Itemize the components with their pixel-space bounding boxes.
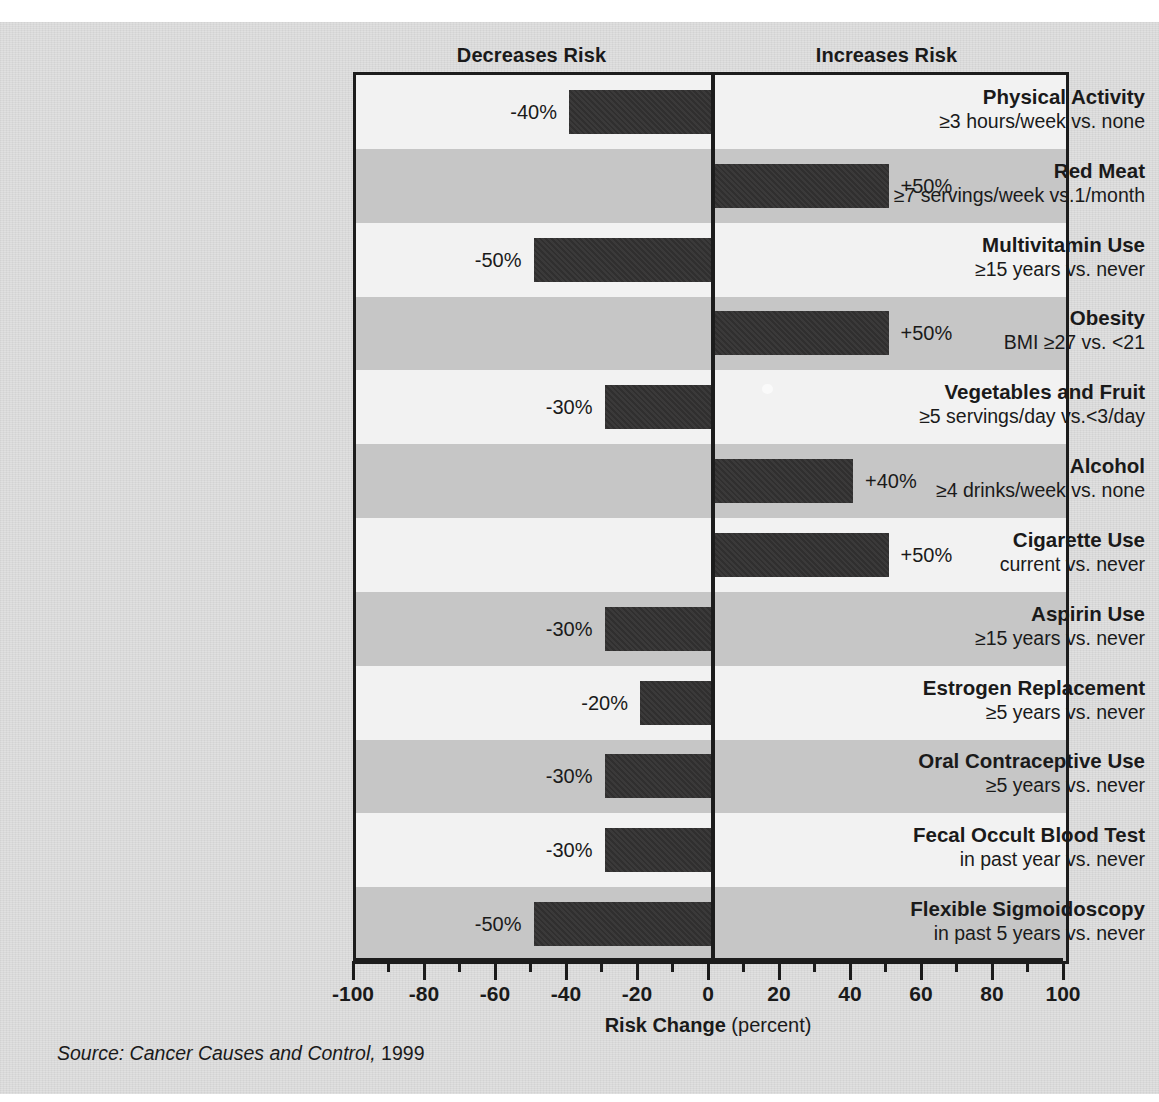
chart-bar xyxy=(534,238,712,282)
x-axis-minor-tick xyxy=(387,961,390,972)
x-axis-major-tick xyxy=(423,961,426,980)
chart-bar xyxy=(605,828,712,872)
category-label-group: Oral Contraceptive Use≥5 years vs. never xyxy=(829,748,1159,798)
chart-bar-value-label: -50% xyxy=(356,248,522,272)
chart-bar xyxy=(711,533,889,577)
x-axis-tick-label: 100 xyxy=(1028,982,1098,1006)
x-axis-minor-tick xyxy=(529,961,532,972)
category-label-group: Flexible Sigmoidoscopyin past 5 years vs… xyxy=(829,896,1159,946)
x-axis-title-main: Risk Change xyxy=(605,1014,726,1036)
category-label-title: Aspirin Use xyxy=(829,601,1145,626)
category-label-subtitle: ≥15 years vs. never xyxy=(829,257,1145,282)
chart-bar-value-label: -30% xyxy=(356,617,593,641)
x-axis-tick-label: -40 xyxy=(531,982,601,1006)
chart-bar-value-label: -50% xyxy=(356,912,522,936)
figure-panel: Decreases Risk Increases Risk -40%+50%-5… xyxy=(0,22,1159,1094)
x-axis-title: Risk Change (percent) xyxy=(353,1014,1063,1037)
x-axis-tick-label: -100 xyxy=(318,982,388,1006)
category-label-subtitle: in past 5 years vs. never xyxy=(829,921,1145,946)
x-axis-major-tick xyxy=(565,961,568,980)
x-axis-major-tick xyxy=(352,961,355,980)
category-label-subtitle: in past year vs. never xyxy=(829,847,1145,872)
category-label-group: Aspirin Use≥15 years vs. never xyxy=(829,601,1159,651)
x-axis-minor-tick xyxy=(955,961,958,972)
category-label-group: Fecal Occult Blood Testin past year vs. … xyxy=(829,822,1159,872)
chart-bar-value-label: -30% xyxy=(356,395,593,419)
x-axis-tick-label: 20 xyxy=(744,982,814,1006)
chart-bar-value-label: -30% xyxy=(356,764,593,788)
category-label-title: Multivitamin Use xyxy=(829,232,1145,257)
x-axis-minor-tick xyxy=(671,961,674,972)
category-label-subtitle: ≥5 years vs. never xyxy=(829,700,1145,725)
source-note-year: 1999 xyxy=(381,1042,424,1064)
chart-bar xyxy=(711,459,853,503)
chart-bar xyxy=(569,90,711,134)
source-note-text: Source: Cancer Causes and Control, xyxy=(57,1042,376,1064)
chart-bar-value-label: -30% xyxy=(356,838,593,862)
x-axis-tick-label: -60 xyxy=(460,982,530,1006)
category-label-title: Estrogen Replacement xyxy=(829,675,1145,700)
category-label-title: Vegetables and Fruit xyxy=(829,379,1145,404)
category-label-title: Flexible Sigmoidoscopy xyxy=(829,896,1145,921)
x-axis-tick-label: 40 xyxy=(815,982,885,1006)
column-header-increases-risk: Increases Risk xyxy=(710,44,1063,67)
category-label-title: Fecal Occult Blood Test xyxy=(829,822,1145,847)
chart-bar xyxy=(711,311,889,355)
category-label-title: Physical Activity xyxy=(829,84,1145,109)
category-label-subtitle: ≥5 servings/day vs.<3/day xyxy=(829,404,1145,429)
x-axis-minor-tick xyxy=(600,961,603,972)
x-axis-major-tick xyxy=(1062,961,1065,980)
chart-bar-value-label: +50% xyxy=(901,543,953,567)
x-axis-tick-label: 80 xyxy=(957,982,1027,1006)
category-label-group: Physical Activity≥3 hours/week vs. none xyxy=(829,84,1159,134)
chart-bar xyxy=(605,607,712,651)
x-axis-tick-label: 60 xyxy=(886,982,956,1006)
category-label-subtitle: ≥3 hours/week vs. none xyxy=(829,109,1145,134)
x-axis-minor-tick xyxy=(884,961,887,972)
source-note: Source: Cancer Causes and Control, 1999 xyxy=(57,1042,424,1065)
chart-bar-value-label: +50% xyxy=(901,174,953,198)
chart-bar xyxy=(534,902,712,946)
chart-bar xyxy=(605,385,712,429)
category-label-title: Oral Contraceptive Use xyxy=(829,748,1145,773)
x-axis: -100-80-60-40-20020406080100 Risk Change… xyxy=(353,958,1069,1068)
category-label-group: Vegetables and Fruit≥5 servings/day vs.<… xyxy=(829,379,1159,429)
x-axis-tick-label: -80 xyxy=(389,982,459,1006)
x-axis-minor-tick xyxy=(742,961,745,972)
category-label-subtitle: ≥5 years vs. never xyxy=(829,773,1145,798)
x-axis-title-unit: (percent) xyxy=(731,1014,811,1036)
x-axis-tick-label: 0 xyxy=(673,982,743,1006)
x-axis-minor-tick xyxy=(1026,961,1029,972)
category-label-group: Estrogen Replacement≥5 years vs. never xyxy=(829,675,1159,725)
x-axis-major-tick xyxy=(707,961,710,980)
chart-bar xyxy=(711,164,889,208)
chart-bar-value-label: -20% xyxy=(356,691,628,715)
x-axis-major-tick xyxy=(849,961,852,980)
x-axis-major-tick xyxy=(991,961,994,980)
x-axis-major-tick xyxy=(494,961,497,980)
column-header-decreases-risk: Decreases Risk xyxy=(353,44,710,67)
scan-artifact-speck xyxy=(762,384,773,394)
x-axis-major-tick xyxy=(778,961,781,980)
chart-bar-value-label: +40% xyxy=(865,469,917,493)
category-label-subtitle: ≥15 years vs. never xyxy=(829,626,1145,651)
x-axis-major-tick xyxy=(636,961,639,980)
chart-bar xyxy=(640,681,711,725)
x-axis-major-tick xyxy=(920,961,923,980)
x-axis-minor-tick xyxy=(813,961,816,972)
x-axis-tick-label: -20 xyxy=(602,982,672,1006)
chart-bar-value-label: +50% xyxy=(901,321,953,345)
category-label-group: Multivitamin Use≥15 years vs. never xyxy=(829,232,1159,282)
chart-bar-value-label: -40% xyxy=(356,100,557,124)
x-axis-minor-tick xyxy=(458,961,461,972)
chart-bar xyxy=(605,754,712,798)
zero-reference-line xyxy=(711,73,715,963)
